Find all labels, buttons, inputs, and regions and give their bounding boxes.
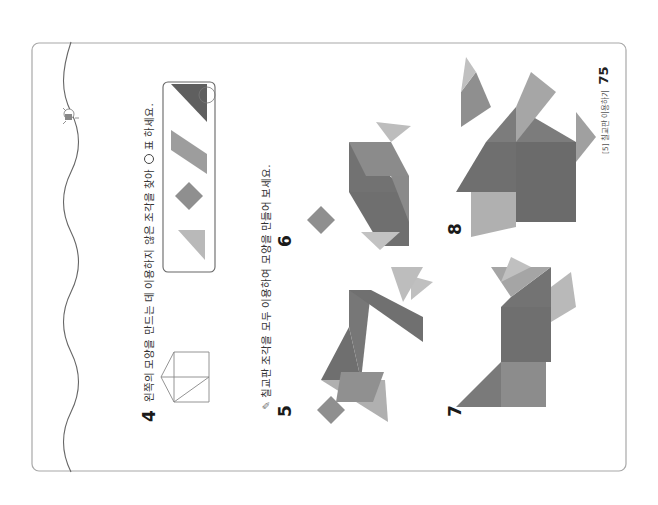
circle-symbol-icon (144, 154, 154, 164)
mascot-doodle-icon (63, 108, 79, 124)
page-number: 75 (596, 66, 611, 84)
option-square[interactable] (175, 182, 203, 210)
problem-7-number: 7 (447, 405, 464, 417)
tangram-figure-8 (456, 57, 596, 237)
wavy-top-line (64, 42, 79, 472)
piece-options (171, 84, 215, 260)
problem-8-number: 8 (447, 223, 464, 235)
problem-4-text-before: 왼쪽의 모양을 만드는 데 이용하지 않은 조각을 찾아 (143, 169, 155, 402)
problem-4-instruction: 왼쪽의 모양을 만드는 데 이용하지 않은 조각을 찾아 표 하세요. (144, 103, 155, 402)
problem-4-number: 4 (141, 410, 158, 422)
problem-4-text-after: 표 하세요. (143, 103, 155, 150)
tangram-figure-7 (456, 257, 576, 407)
pencil-icon: ✎ (260, 401, 272, 410)
page-footer: [5] 칠교판 이용하기 75 (593, 66, 612, 154)
tangram-figure-5 (317, 267, 433, 424)
problem-6-number: 6 (277, 235, 294, 247)
problem-5-number: 5 (277, 405, 294, 417)
option-small-triangle[interactable] (178, 230, 205, 260)
section-instruction-row: ✎ 칠교판 조각을 모두 이용하여 모양을 만들어 보세요. (261, 164, 272, 410)
chapter-label: [5] 칠교판 이용하기 (601, 90, 610, 154)
option-large-triangle[interactable] (171, 84, 207, 122)
piece-choice-box (163, 82, 215, 272)
page-graphics (31, 42, 627, 472)
option-parallelogram[interactable] (171, 130, 207, 174)
tangram-figure-6 (307, 122, 411, 250)
house-outline-figure (161, 352, 209, 402)
workbook-page: 4 왼쪽의 모양을 만드는 데 이용하지 않은 조각을 찾아 표 하세요. ✎ … (31, 42, 627, 472)
section-instruction: 칠교판 조각을 모두 이용하여 모양을 만들어 보세요. (260, 164, 272, 397)
